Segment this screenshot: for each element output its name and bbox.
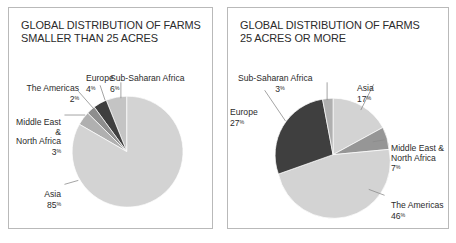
leader-line-asia xyxy=(64,180,78,184)
figure-container: GLOBAL DISTRIBUTION OF FARMS SMALLER THA… xyxy=(0,0,456,243)
pie-label-asia-value: 17% xyxy=(357,94,374,105)
pie-label-sub-saharan-africa-value: 6% xyxy=(110,84,185,95)
pie-label-sub-saharan-africa-name: Sub-Saharan Africa xyxy=(238,73,313,83)
pie-label-middle-east-north-africa-value: 3% xyxy=(9,147,61,158)
pie-label-asia-name: Asia xyxy=(357,83,374,93)
pie-label-middle-east-north-africa-name: Middle East & North Africa xyxy=(16,117,61,147)
pie-label-middle-east-north-africa-name: Middle East & North Africa xyxy=(391,143,444,163)
pie-label-middle-east-north-africa: Middle East & North Africa 3% xyxy=(9,108,61,168)
pie-label-sub-saharan-africa-value: 3% xyxy=(238,84,322,95)
pie-label-the-americas-value: 46% xyxy=(391,211,444,222)
pie-label-europe: Europe 27% xyxy=(230,98,258,138)
pie-label-europe-name: Europe xyxy=(86,73,114,83)
pie-label-the-americas: The Americas 46% xyxy=(391,191,444,231)
pie-label-middle-east-north-africa: Middle East & North Africa 7% xyxy=(391,134,444,184)
pie-label-asia-value: 85% xyxy=(21,200,61,211)
pie-label-europe-value: 27% xyxy=(230,118,258,129)
pie-label-sub-saharan-africa-name: Sub-Saharan Africa xyxy=(110,73,185,83)
pie-label-asia: Asia 85% xyxy=(21,180,61,220)
chart-panel-farms-smaller-than-25-acres: GLOBAL DISTRIBUTION OF FARMS SMALLER THA… xyxy=(8,7,213,229)
pie-label-the-americas-name: The Americas xyxy=(391,200,444,210)
pie-label-europe: Europe 4% xyxy=(86,64,114,104)
pie-label-asia: Asia 17% xyxy=(357,74,374,114)
pie-label-europe-value: 4% xyxy=(86,84,114,95)
pie-label-the-americas-value: 2% xyxy=(13,94,79,105)
pie-label-europe-name: Europe xyxy=(230,107,258,117)
pie-label-the-americas-name: The Americas xyxy=(26,83,79,93)
pie-label-sub-saharan-africa: Sub-Saharan Africa 6% xyxy=(110,64,185,104)
chart-panel-farms-25-acres-or-more: GLOBAL DISTRIBUTION OF FARMS 25 ACRES OR… xyxy=(227,7,449,229)
pie-label-asia-name: Asia xyxy=(44,189,61,199)
pie-label-middle-east-north-africa-value: 7% xyxy=(391,163,444,174)
